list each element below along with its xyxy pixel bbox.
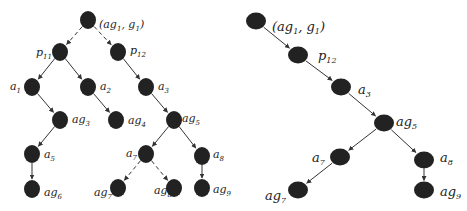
node-label-a5: a5 bbox=[44, 148, 56, 163]
node-label-p12: p12 bbox=[318, 48, 337, 65]
right-tree: (ag1, g1)p12a3ag5a7a8ag7ag9 bbox=[246, 13, 461, 206]
node-label-ag4: ag4 bbox=[128, 114, 146, 129]
node-a2 bbox=[80, 78, 96, 96]
edge-ag3-a5 bbox=[38, 127, 54, 146]
node-label-ag6: ag6 bbox=[44, 186, 63, 201]
left-tree: (ag1, g1)p11p12a1a2a3ag3ag4ag5a5a7a8ag6a… bbox=[10, 11, 232, 201]
node-label-a7: a7 bbox=[312, 150, 326, 167]
node-label-p12: p12 bbox=[130, 44, 147, 59]
node-ag7 bbox=[288, 182, 308, 199]
node-label-a3: a3 bbox=[158, 80, 170, 95]
node-label-ag3: ag3 bbox=[72, 113, 91, 128]
node-ag7 bbox=[110, 179, 126, 197]
edge-p11-a1 bbox=[38, 59, 54, 79]
edge-p11-a2 bbox=[66, 59, 82, 79]
node-a5 bbox=[24, 145, 40, 163]
node-root bbox=[246, 13, 266, 30]
node-label-ag9: ag9 bbox=[213, 183, 232, 198]
node-a7 bbox=[138, 145, 154, 163]
node-p12 bbox=[288, 47, 308, 64]
node-ag5 bbox=[374, 115, 394, 132]
node-a8 bbox=[414, 152, 434, 169]
node-ag4 bbox=[108, 111, 124, 129]
edge-ag5-a8 bbox=[391, 130, 416, 153]
node-label-a7: a7 bbox=[126, 147, 138, 162]
node-a7 bbox=[330, 149, 350, 166]
edge-ag5-a8 bbox=[180, 127, 196, 148]
edge-a2-ag4 bbox=[94, 94, 110, 113]
node-ag9 bbox=[194, 179, 210, 197]
node-root bbox=[80, 11, 96, 29]
node-a8 bbox=[194, 147, 210, 165]
node-label-a1: a1 bbox=[10, 80, 21, 95]
node-label-a8: a8 bbox=[440, 150, 453, 167]
node-a3 bbox=[138, 78, 154, 96]
tree-diagram: (ag1, g1)p11p12a1a2a3ag3ag4ag5a5a7a8ag6a… bbox=[0, 0, 467, 211]
edge-a3-ag5 bbox=[152, 94, 168, 113]
node-label-ag9: ag9 bbox=[440, 184, 461, 201]
node-ag5 bbox=[166, 111, 182, 129]
node-ag6 bbox=[24, 180, 40, 198]
node-a1 bbox=[24, 78, 40, 96]
node-ag9 bbox=[414, 182, 434, 199]
node-label-a8: a8 bbox=[213, 148, 225, 163]
node-label-ag5: ag5 bbox=[182, 112, 201, 127]
edge-ag5-a7 bbox=[152, 127, 168, 146]
node-ag3 bbox=[52, 111, 68, 129]
edge-a1-ag3 bbox=[38, 94, 54, 113]
edge-p12-a3 bbox=[124, 59, 140, 79]
node-label-a2: a2 bbox=[100, 80, 112, 95]
edge-root-p11-dashed bbox=[67, 27, 82, 45]
node-label-p11: p11 bbox=[36, 46, 52, 61]
edge-ag5-a7 bbox=[349, 129, 376, 150]
node-label-a3: a3 bbox=[358, 82, 371, 99]
node-label-root: (ag1, g1) bbox=[272, 19, 325, 36]
node-label-ag7: ag7 bbox=[265, 188, 287, 205]
node-label-ag5: ag5 bbox=[396, 114, 417, 131]
edge-a7-ag8-dashed bbox=[152, 161, 168, 180]
node-p11 bbox=[52, 43, 68, 61]
node-label-ag7: ag7 bbox=[94, 186, 113, 201]
node-p12 bbox=[110, 43, 126, 61]
node-a3 bbox=[331, 79, 351, 96]
edge-a7-ag7-dashed bbox=[124, 161, 140, 180]
node-label-root: (ag1, g1) bbox=[99, 18, 144, 33]
